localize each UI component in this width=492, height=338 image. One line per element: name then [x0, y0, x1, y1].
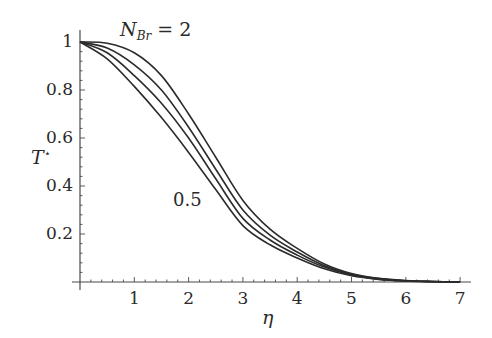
annotation-nbr-2: NBr = 2 — [120, 18, 191, 43]
y-axis-label-sup: ⋆ — [44, 147, 51, 160]
curves — [80, 42, 460, 282]
y-tick-label: 0.8 — [33, 79, 73, 99]
x-tick-label: 3 — [233, 288, 253, 308]
x-tick-label: 5 — [342, 288, 362, 308]
y-tick-label: 1 — [33, 31, 73, 51]
x-axis-label: η — [262, 306, 273, 328]
annotation-n: N — [120, 18, 137, 40]
y-tick-label: 0.4 — [33, 175, 73, 195]
axes — [72, 30, 471, 290]
y-axis-label: T⋆ — [31, 146, 51, 168]
y-tick-label: 0.2 — [33, 223, 73, 243]
annotation-sub: Br — [137, 29, 152, 43]
annotation-nbr-0-5: 0.5 — [173, 189, 202, 210]
x-tick-label: 7 — [450, 288, 470, 308]
y-axis-label-main: T — [31, 146, 44, 168]
x-tick-label: 2 — [179, 288, 199, 308]
x-tick-label: 6 — [396, 288, 416, 308]
y-tick-label: 0.6 — [33, 127, 73, 147]
x-tick-label: 1 — [124, 288, 144, 308]
annotation-rest: = 2 — [151, 18, 191, 40]
x-tick-label: 4 — [287, 288, 307, 308]
curve-n-br-1 — [80, 42, 460, 282]
chart-figure: 0.20.40.60.81 1234567 T⋆ η NBr = 2 0.5 — [0, 0, 492, 338]
